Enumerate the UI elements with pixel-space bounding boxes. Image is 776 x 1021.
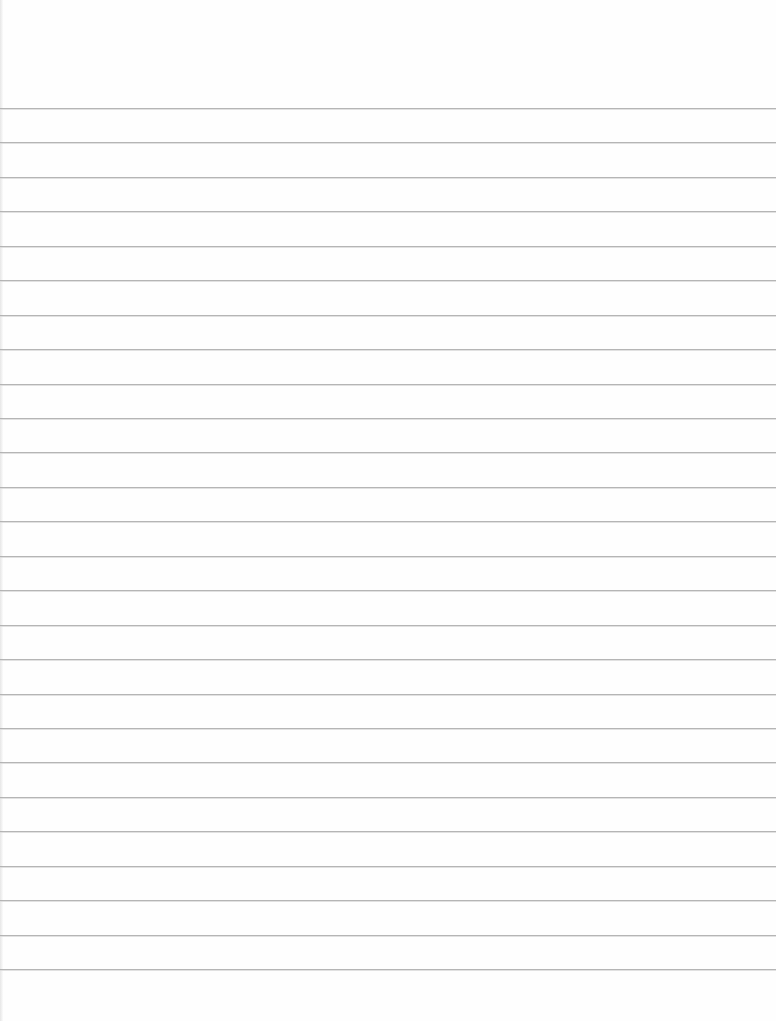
ruled-line	[0, 762, 776, 763]
ruled-line	[0, 935, 776, 936]
ruled-line	[0, 418, 776, 419]
ruled-line	[0, 590, 776, 591]
ruled-line	[0, 521, 776, 522]
ruled-line	[0, 797, 776, 798]
ruled-line	[0, 108, 776, 109]
ruled-line	[0, 142, 776, 143]
ruled-line	[0, 866, 776, 867]
ruled-paper-page	[0, 0, 776, 1021]
ruled-line	[0, 246, 776, 247]
ruled-line	[0, 694, 776, 695]
ruled-line	[0, 315, 776, 316]
ruled-line	[0, 452, 776, 453]
ruled-line	[0, 969, 776, 970]
ruled-line	[0, 556, 776, 557]
ruled-line	[0, 900, 776, 901]
ruled-line	[0, 349, 776, 350]
ruled-line	[0, 384, 776, 385]
ruled-line	[0, 625, 776, 626]
ruled-line	[0, 831, 776, 832]
ruled-line	[0, 211, 776, 212]
ruled-line	[0, 659, 776, 660]
ruled-line	[0, 177, 776, 178]
ruled-line	[0, 728, 776, 729]
ruled-line	[0, 280, 776, 281]
ruled-line	[0, 487, 776, 488]
